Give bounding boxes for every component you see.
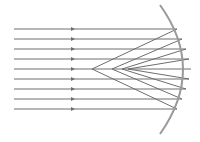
incident-rays <box>14 29 191 109</box>
arrowheads <box>71 27 75 111</box>
mirror-ray-diagram <box>0 0 200 142</box>
